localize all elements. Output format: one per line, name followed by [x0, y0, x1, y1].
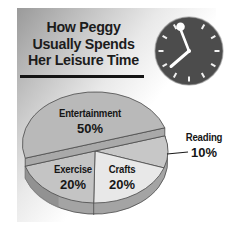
label-reading: Reading 10%	[176, 132, 232, 160]
label-entertainment: Entertainment 50%	[35, 108, 144, 136]
exercise-name: Exercise	[30, 164, 116, 176]
reading-pct: 10%	[176, 145, 232, 160]
entertainment-pct: 50%	[35, 121, 144, 136]
label-exercise: Exercise 20%	[30, 164, 116, 192]
figure-root: How Peggy Usually Spends Her Leisure Tim…	[0, 0, 232, 231]
clock-center-dot	[187, 49, 191, 53]
exercise-pct: 20%	[30, 177, 116, 192]
reading-name: Reading	[176, 132, 232, 144]
entertainment-name: Entertainment	[35, 108, 144, 120]
clock-icon	[155, 17, 223, 85]
